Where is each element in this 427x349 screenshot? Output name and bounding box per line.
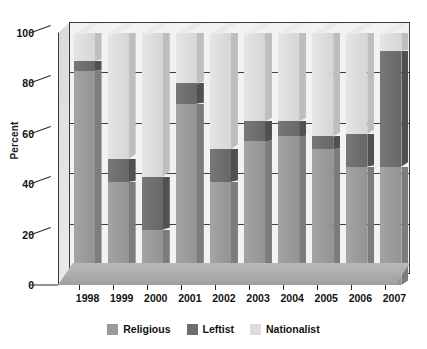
bar-segment-leftist[interactable]	[176, 83, 197, 103]
chart-figure: Percent 020406080100 1998199920002001200…	[0, 0, 427, 349]
bar-segment-side-leftist	[231, 149, 238, 182]
bar-segment-side-nationalist	[197, 33, 204, 83]
bar-segment-leftist[interactable]	[346, 134, 367, 167]
bar-segment-nationalist[interactable]	[176, 33, 197, 83]
bar-column[interactable]	[244, 22, 265, 285]
bar-segment-side-leftist	[265, 121, 272, 141]
x-tick-mark	[351, 285, 352, 290]
bar-column[interactable]	[176, 22, 197, 285]
bar-segment-leftist[interactable]	[278, 121, 299, 136]
bar-segment-side-leftist	[333, 136, 340, 149]
bar-segment-side-nationalist	[333, 33, 340, 136]
plot-area	[58, 22, 410, 285]
bar-segment-religious[interactable]	[176, 104, 197, 285]
x-tick-mark	[283, 285, 284, 290]
bar-segment-leftist[interactable]	[380, 51, 401, 167]
bar-segment-side-nationalist	[299, 33, 306, 121]
bar-segment-nationalist[interactable]	[108, 33, 129, 159]
bar-segment-side-leftist	[197, 83, 204, 103]
bar-series-group	[58, 22, 410, 285]
bar-segment-nationalist[interactable]	[210, 33, 231, 149]
bar-column[interactable]	[108, 22, 129, 285]
x-tick-label: 2005	[315, 292, 338, 304]
legend-swatch	[107, 324, 118, 335]
bar-segment-side-nationalist	[367, 33, 374, 134]
bar-segment-side-nationalist	[163, 33, 170, 177]
x-tick-mark	[249, 285, 250, 290]
bar-segment-leftist[interactable]	[210, 149, 231, 182]
x-tick-mark	[181, 285, 182, 290]
x-tick-label: 2007	[383, 292, 406, 304]
bar-segment-side-leftist	[367, 134, 374, 167]
bar-segment-side-leftist	[163, 177, 170, 230]
legend-swatch	[187, 324, 198, 335]
bar-segment-side-leftist	[95, 61, 102, 71]
y-tick-mark	[30, 285, 58, 286]
bar-segment-side-leftist	[129, 159, 136, 182]
bar-column[interactable]	[380, 22, 401, 285]
legend-item[interactable]: Leftist	[187, 323, 235, 335]
x-tick-label: 2003	[246, 292, 269, 304]
x-tick-mark	[317, 285, 318, 290]
bar-column[interactable]	[74, 22, 95, 285]
x-tick-label: 2004	[280, 292, 303, 304]
bar-segment-side-nationalist	[401, 33, 408, 51]
bar-segment-religious[interactable]	[74, 71, 95, 285]
bar-segment-leftist[interactable]	[74, 61, 95, 71]
legend-item[interactable]: Religious	[107, 323, 170, 335]
bar-column[interactable]	[142, 22, 163, 285]
legend-label: Religious	[123, 323, 170, 335]
bar-column[interactable]	[312, 22, 333, 285]
x-tick-label: 1999	[110, 292, 133, 304]
bar-segment-nationalist[interactable]	[380, 33, 401, 51]
bar-segment-nationalist[interactable]	[142, 33, 163, 177]
x-tick-label: 2006	[349, 292, 372, 304]
bar-segment-side-nationalist	[95, 33, 102, 61]
chart-legend: ReligiousLeftistNationalist	[0, 320, 427, 338]
bar-segment-side-leftist	[401, 51, 408, 167]
bar-segment-side-religious	[197, 104, 204, 285]
x-tick-mark	[385, 285, 386, 290]
legend-item[interactable]: Nationalist	[250, 323, 320, 335]
x-tick-label: 2001	[178, 292, 201, 304]
bar-segment-side-nationalist	[231, 33, 238, 149]
plot-floor	[58, 263, 410, 285]
x-tick-label: 1998	[76, 292, 99, 304]
bar-segment-side-nationalist	[265, 33, 272, 121]
x-tick-mark	[147, 285, 148, 290]
x-tick-mark	[215, 285, 216, 290]
bar-column[interactable]	[278, 22, 299, 285]
bar-segment-side-leftist	[299, 121, 306, 136]
bar-column[interactable]	[210, 22, 231, 285]
legend-swatch	[250, 324, 261, 335]
bar-segment-nationalist[interactable]	[278, 33, 299, 121]
x-tick-mark	[113, 285, 114, 290]
bar-segment-nationalist[interactable]	[244, 33, 265, 121]
bar-segment-leftist[interactable]	[108, 159, 129, 182]
bar-segment-nationalist[interactable]	[346, 33, 367, 134]
legend-label: Nationalist	[266, 323, 320, 335]
bar-segment-nationalist[interactable]	[312, 33, 333, 136]
bar-segment-leftist[interactable]	[244, 121, 265, 141]
x-axis-labels: 1998199920002001200220032004200520062007	[0, 292, 427, 308]
bar-segment-side-nationalist	[129, 33, 136, 159]
bar-segment-religious[interactable]	[278, 136, 299, 285]
bar-segment-leftist[interactable]	[142, 177, 163, 230]
legend-label: Leftist	[203, 323, 235, 335]
bar-segment-leftist[interactable]	[312, 136, 333, 149]
bar-segment-nationalist[interactable]	[74, 33, 95, 61]
x-tick-label: 2000	[144, 292, 167, 304]
bar-segment-side-religious	[95, 71, 102, 285]
bar-segment-side-religious	[299, 136, 306, 285]
x-tick-mark	[79, 285, 80, 290]
x-tick-label: 2002	[212, 292, 235, 304]
bar-column[interactable]	[346, 22, 367, 285]
